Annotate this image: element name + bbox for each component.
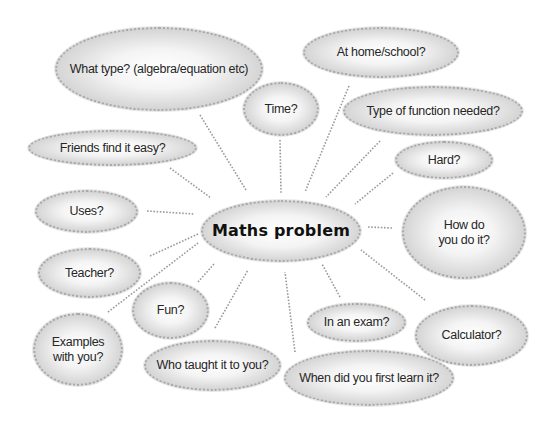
node-label: In an exam?	[320, 315, 394, 330]
connector-teacher	[150, 234, 198, 256]
mind-map-canvas: Maths problem What type? (algebra/equati…	[0, 0, 551, 421]
node-hard: Hard?	[395, 141, 493, 179]
node-what-type: What type? (algebra/equation etc)	[55, 27, 263, 111]
node-label: Fun?	[153, 303, 188, 318]
connector-hard	[355, 173, 393, 204]
node-examples: Exampleswith you?	[33, 313, 123, 386]
node-label: Calculator?	[438, 328, 506, 343]
connector-type-of-function	[326, 141, 380, 197]
connector-friends-easy	[170, 168, 211, 198]
node-label: Exampleswith you?	[48, 335, 108, 365]
central-node-maths-problem: Maths problem	[201, 200, 361, 262]
node-label: When did you first learn it?	[295, 371, 443, 386]
node-fun: Fun?	[132, 282, 209, 339]
connector-how-do-you-do-it	[368, 227, 392, 228]
connector-uses	[147, 211, 194, 214]
node-type-of-function: Type of function needed?	[343, 86, 523, 136]
node-label: Time?	[261, 102, 302, 117]
node-label: Teacher?	[61, 266, 118, 281]
node-label: Type of function needed?	[362, 104, 503, 119]
node-when-first-learn: When did you first learn it?	[284, 350, 454, 406]
node-calculator: Calculator?	[415, 305, 528, 366]
node-label: Uses?	[66, 204, 108, 219]
node-label: Friends find it easy?	[56, 141, 170, 156]
connector-time	[280, 140, 281, 193]
node-friends-easy: Friends find it easy?	[28, 130, 197, 166]
node-time: Time?	[243, 82, 319, 136]
node-uses: Uses?	[35, 190, 138, 233]
central-node-label: Maths problem	[208, 221, 354, 240]
connector-what-type	[200, 115, 246, 190]
connector-when-first-learn	[285, 272, 295, 352]
node-who-taught: Who taught it to you?	[144, 340, 281, 391]
node-at-home-school: At home/school?	[303, 27, 459, 78]
node-label: What type? (algebra/equation etc)	[66, 62, 252, 77]
node-label: How doyou do it?	[434, 218, 493, 248]
node-teacher: Teacher?	[38, 248, 141, 298]
connector-in-an-exam	[322, 264, 340, 297]
connector-fun	[198, 264, 214, 282]
node-label: Hard?	[424, 153, 465, 168]
node-in-an-exam: In an exam?	[307, 303, 406, 342]
node-label: At home/school?	[333, 45, 430, 60]
node-how-do-you-do-it: How doyou do it?	[402, 186, 526, 279]
node-label: Who taught it to you?	[153, 358, 273, 373]
connector-who-taught	[215, 270, 248, 328]
